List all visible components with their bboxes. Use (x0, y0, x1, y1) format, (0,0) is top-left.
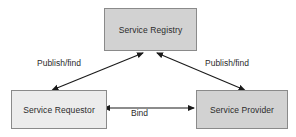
diagram-canvas: Service Registry Service Requestor Servi… (0, 0, 296, 137)
node-service-provider[interactable]: Service Provider (196, 90, 288, 129)
edge-label-bind: Bind (131, 108, 148, 118)
node-service-registry-label: Service Registry (119, 25, 182, 35)
node-service-requestor-label: Service Requestor (23, 105, 95, 115)
edge-label-publish-find-left: Publish/find (37, 58, 81, 68)
node-service-provider-label: Service Provider (210, 105, 274, 115)
edge-label-publish-find-right: Publish/find (205, 58, 249, 68)
node-service-requestor[interactable]: Service Requestor (11, 90, 107, 129)
node-service-registry[interactable]: Service Registry (104, 8, 197, 51)
